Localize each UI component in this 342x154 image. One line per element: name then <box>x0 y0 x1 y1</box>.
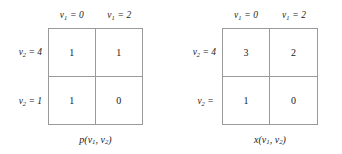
column-header-p-1-value: 2 <box>126 10 131 20</box>
matrix-cell-x-r1-c0: 1 <box>223 77 270 125</box>
row-labels-p: v2 = 4 v2 = 1 <box>2 28 46 125</box>
row-label-p-1: v2 = 1 <box>2 77 46 126</box>
matrix-grid-x: 3 2 1 0 <box>222 28 318 125</box>
matrix-caption-x: x(v1, v2) <box>222 131 318 147</box>
matrix-caption-p: p(v1, v2) <box>48 131 143 147</box>
column-headers-x: v1 = 0 v1 = 2 <box>222 6 318 24</box>
matrix-cell-p-r1-c1: 0 <box>96 77 143 125</box>
row-label-x-0-value: 4 <box>211 47 216 57</box>
matrix-cell-x-r0-c1: 2 <box>270 29 317 77</box>
column-header-x-1: v1 = 2 <box>270 6 318 24</box>
row-label-x-0: v2 = 4 <box>176 28 220 77</box>
column-header-x-0: v1 = 0 <box>222 6 270 24</box>
column-header-p-0-value: 0 <box>79 10 84 20</box>
row-label-p-0: v2 = 4 <box>2 28 46 77</box>
column-header-x-0-value: 0 <box>253 10 258 20</box>
row-label-p-1-value: 1 <box>37 96 42 106</box>
matrix-block-p: v1 = 0 v1 = 2 v2 = 4 v2 = 1 1 1 1 0 p(v1… <box>0 0 171 154</box>
matrix-block-x: v1 = 0 v1 = 2 v2 = 4 v2 = 3 2 1 0 x(v1, … <box>171 0 342 154</box>
matrix-cell-x-r0-c0: 3 <box>223 29 270 77</box>
column-header-p-0: v1 = 0 <box>48 6 96 24</box>
row-label-p-0-value: 4 <box>37 47 42 57</box>
matrix-cell-x-r1-c1: 0 <box>270 77 317 125</box>
matrix-grid-p: 1 1 1 0 <box>48 28 143 125</box>
matrix-cell-p-r0-c0: 1 <box>49 29 96 77</box>
matrix-cell-p-r0-c1: 1 <box>96 29 143 77</box>
column-headers-p: v1 = 0 v1 = 2 <box>48 6 143 24</box>
row-label-x-1: v2 = <box>176 77 220 126</box>
column-header-x-1-value: 2 <box>301 10 306 20</box>
matrix-cell-p-r1-c0: 1 <box>49 77 96 125</box>
column-header-p-1: v1 = 2 <box>96 6 144 24</box>
row-labels-x: v2 = 4 v2 = <box>176 28 220 125</box>
two-matrix-figure: v1 = 0 v1 = 2 v2 = 4 v2 = 1 1 1 1 0 p(v1… <box>0 0 342 154</box>
